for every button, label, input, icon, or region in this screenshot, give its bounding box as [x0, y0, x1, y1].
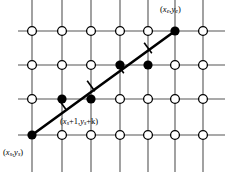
- open-grid-point-10: [199, 61, 208, 70]
- chosen-pixel-1: [57, 94, 66, 103]
- start-pixel-0: [27, 130, 36, 139]
- ideal-line: [32, 31, 175, 135]
- open-grid-point-6: [28, 61, 37, 70]
- open-grid-point-5: [199, 27, 208, 36]
- chosen-pixel-4: [143, 60, 152, 69]
- open-grid-point-17: [87, 131, 96, 140]
- open-grid-point-3: [116, 27, 125, 36]
- open-grid-point-8: [87, 61, 96, 70]
- grid-horizontal-lines: [18, 31, 225, 135]
- diagram-canvas: [0, 0, 225, 172]
- open-grid-point-14: [171, 95, 180, 104]
- open-grid-point-21: [199, 131, 208, 140]
- open-grid-point-16: [58, 131, 67, 140]
- open-grid-point-1: [58, 27, 67, 36]
- open-grid-point-19: [144, 131, 153, 140]
- open-grid-point-18: [116, 131, 125, 140]
- open-grid-point-15: [199, 95, 208, 104]
- line-rasterization-figure: (xe,ye) (xs,ys) (xs+1,ys+k): [0, 0, 225, 172]
- open-grid-point-0: [28, 27, 37, 36]
- open-grid-point-20: [171, 131, 180, 140]
- start-point-label: (xs,ys): [3, 148, 23, 157]
- open-grid-point-11: [28, 95, 37, 104]
- open-grid-point-12: [116, 95, 125, 104]
- ideal-line-segment: [32, 31, 175, 135]
- unselected-grid-points: [28, 27, 208, 140]
- end-point-label: (xe,ye): [160, 5, 181, 14]
- open-grid-point-2: [87, 27, 96, 36]
- open-grid-point-7: [58, 61, 67, 70]
- chosen-pixel-2: [86, 94, 95, 103]
- chosen-pixel-3: [115, 60, 124, 69]
- end-pixel-5: [170, 26, 179, 35]
- open-grid-point-13: [144, 95, 153, 104]
- grid-vertical-lines: [32, 0, 203, 172]
- open-grid-point-9: [171, 61, 180, 70]
- next-point-label: (xs+1,ys+k): [60, 117, 98, 126]
- open-grid-point-4: [144, 27, 153, 36]
